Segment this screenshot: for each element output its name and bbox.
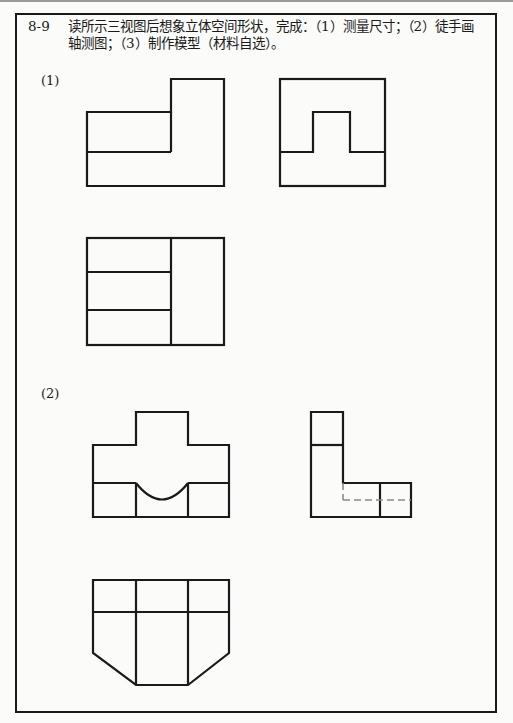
problem-1-side-view bbox=[280, 79, 385, 186]
problem-2-top-view bbox=[93, 580, 229, 685]
problem-2-side-hidden-lines bbox=[343, 483, 411, 500]
orthographic-drawings bbox=[0, 0, 513, 723]
problem-1-top-view bbox=[87, 238, 224, 345]
problem-2-side-view bbox=[311, 412, 411, 517]
problem-2-front-view bbox=[93, 412, 229, 517]
problem-1-front-view bbox=[87, 79, 224, 186]
